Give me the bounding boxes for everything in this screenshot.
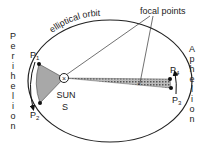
point-p4-dot	[168, 77, 172, 81]
svg-text:r: r	[12, 51, 15, 61]
svg-text:n: n	[10, 121, 15, 131]
point-p3-label: P3	[172, 95, 182, 106]
svg-text:l: l	[191, 84, 193, 94]
sun-symbol-label: S	[62, 102, 68, 112]
svg-text:e: e	[189, 74, 194, 84]
svg-text:p: p	[189, 54, 194, 64]
svg-text:i: i	[12, 101, 14, 111]
second-focus-icon: ×	[137, 81, 141, 87]
svg-text:o: o	[10, 111, 15, 121]
svg-text:i: i	[12, 61, 14, 71]
kepler-orbit-diagram: × × elliptical orbit focal points SUN S …	[0, 0, 211, 147]
svg-text:e: e	[10, 81, 15, 91]
sun-cross-icon: ×	[62, 75, 66, 82]
point-p2-dot	[38, 101, 42, 105]
svg-text:e: e	[10, 41, 15, 51]
svg-text:P: P	[10, 31, 16, 41]
focal-points-label: focal points	[140, 6, 186, 16]
aphelion-label: A p h e l i o n	[189, 44, 195, 124]
svg-text:h: h	[10, 71, 15, 81]
point-p3-dot	[169, 86, 173, 90]
aphelion-motion-arrow	[175, 73, 176, 94]
svg-text:n: n	[189, 114, 194, 124]
sun-label: SUN	[56, 90, 75, 100]
point-p4-label: P4	[170, 65, 180, 76]
svg-text:i: i	[191, 94, 193, 104]
aphelion-sector	[64, 78, 171, 88]
svg-text:A: A	[189, 44, 195, 54]
svg-text:o: o	[189, 104, 194, 114]
perihelion-label: P e r i h e l i o n	[10, 31, 16, 131]
svg-text:h: h	[189, 64, 194, 74]
svg-text:l: l	[12, 91, 14, 101]
point-p1-dot	[37, 62, 41, 66]
